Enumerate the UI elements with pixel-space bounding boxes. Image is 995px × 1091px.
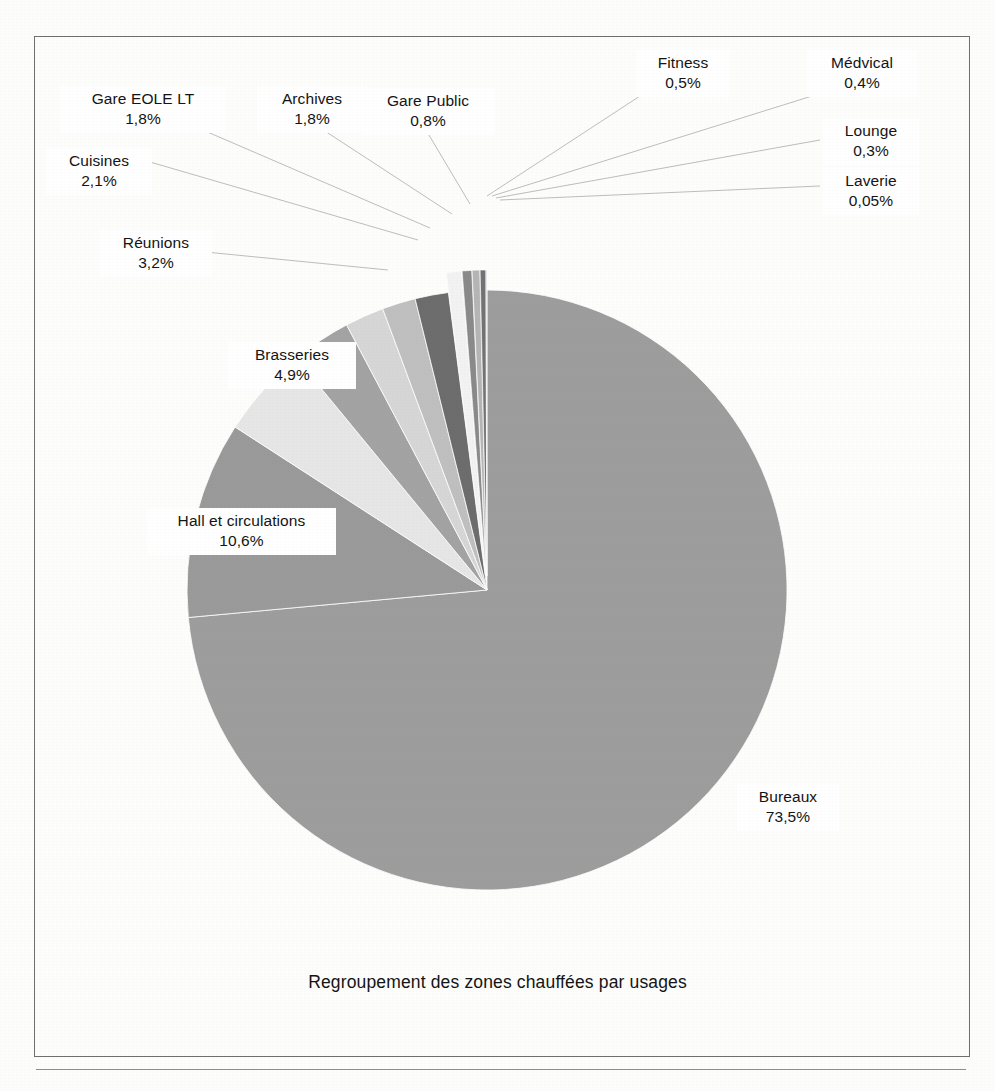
- label-cuisines-name: Cuisines: [53, 151, 145, 171]
- label-lounge-pct: 0,3%: [830, 141, 912, 161]
- label-brasseries[interactable]: Brasseries 4,9%: [228, 342, 356, 389]
- label-bureaux-name: Bureaux: [744, 787, 832, 807]
- label-reunions[interactable]: Réunions 3,2%: [100, 230, 212, 277]
- label-gare-eole-lt[interactable]: Gare EOLE LT 1,8%: [60, 86, 226, 133]
- label-fitness[interactable]: Fitness 0,5%: [636, 50, 730, 97]
- label-medvical-pct: 0,4%: [814, 73, 910, 93]
- label-hall-pct: 10,6%: [154, 531, 329, 551]
- label-lounge-name: Lounge: [830, 121, 912, 141]
- label-laverie-pct: 0,05%: [830, 191, 912, 211]
- label-fitness-name: Fitness: [643, 53, 723, 73]
- label-medvical-name: Médvical: [814, 53, 910, 73]
- label-gare-eole-lt-pct: 1,8%: [67, 109, 219, 129]
- label-archives[interactable]: Archives 1,8%: [257, 86, 367, 133]
- label-laverie-name: Laverie: [830, 171, 912, 191]
- label-hall-et-circulations[interactable]: Hall et circulations 10,6%: [147, 508, 336, 555]
- label-gare-eole-lt-name: Gare EOLE LT: [67, 89, 219, 109]
- label-lounge[interactable]: Lounge 0,3%: [823, 118, 919, 165]
- label-archives-name: Archives: [264, 89, 360, 109]
- label-reunions-name: Réunions: [107, 233, 205, 253]
- label-laverie[interactable]: Laverie 0,05%: [823, 168, 919, 215]
- label-archives-pct: 1,8%: [264, 109, 360, 129]
- label-reunions-pct: 3,2%: [107, 253, 205, 273]
- figure-caption: Regroupement des zones chauffées par usa…: [0, 972, 995, 993]
- label-fitness-pct: 0,5%: [643, 73, 723, 93]
- label-hall-name: Hall et circulations: [154, 511, 329, 531]
- label-gare-public[interactable]: Gare Public 0,8%: [362, 88, 494, 135]
- label-medvical[interactable]: Médvical 0,4%: [807, 50, 917, 97]
- label-cuisines[interactable]: Cuisines 2,1%: [46, 148, 152, 195]
- label-bureaux[interactable]: Bureaux 73,5%: [737, 784, 839, 831]
- label-cuisines-pct: 2,1%: [53, 171, 145, 191]
- label-brasseries-pct: 4,9%: [235, 365, 349, 385]
- label-brasseries-name: Brasseries: [235, 345, 349, 365]
- label-bureaux-pct: 73,5%: [744, 807, 832, 827]
- label-gare-public-pct: 0,8%: [369, 111, 487, 131]
- pie-chart: Gare EOLE LT 1,8% Archives 1,8% Gare Pub…: [0, 0, 995, 1091]
- label-gare-public-name: Gare Public: [369, 91, 487, 111]
